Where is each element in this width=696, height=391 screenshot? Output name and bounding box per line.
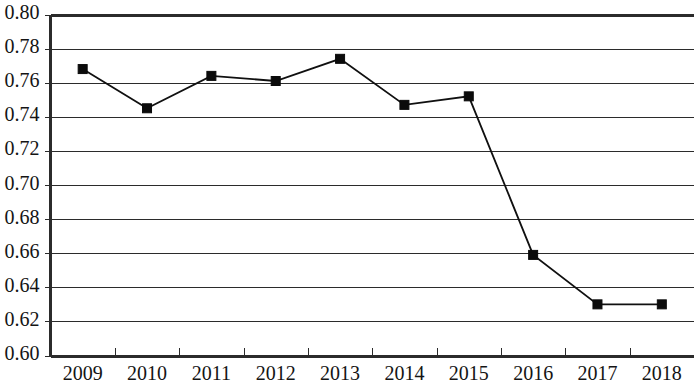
y-tick-label: 0.74: [5, 103, 40, 125]
data-point-marker: 2014: 0.747: [400, 100, 409, 109]
series-line: [83, 59, 662, 305]
y-tick-label: 0.76: [5, 69, 40, 91]
x-tick-label: 2016: [513, 362, 553, 384]
data-series: 2009: 0.7682010: 0.7452011: 0.7642012: 0…: [78, 54, 666, 309]
data-point-marker: 2012: 0.761: [271, 77, 280, 86]
data-point-marker: 2017: 0.630: [593, 300, 602, 309]
y-tick-label: 0.60: [5, 342, 40, 364]
data-point-marker: 2011: 0.764: [207, 71, 216, 80]
y-tick-label: 0.68: [5, 206, 40, 228]
data-point-marker: 2018: 0.630: [657, 300, 666, 309]
x-tick-label: 2011: [192, 362, 231, 384]
y-tick-label: 0.80: [5, 1, 40, 23]
x-tick-label: 2018: [642, 362, 682, 384]
y-tick-label: 0.70: [5, 172, 40, 194]
data-point-marker: 2015: 0.752: [464, 92, 473, 101]
y-tick-label: 0.62: [5, 308, 40, 330]
x-tick-label: 2010: [127, 362, 167, 384]
x-tick-marks: [116, 348, 631, 357]
x-tick-label: 2017: [577, 362, 617, 384]
gridlines: [51, 16, 695, 322]
y-tick-labels: 0.600.620.640.660.680.700.720.740.760.78…: [5, 1, 40, 364]
line-chart: 0.600.620.640.660.680.700.720.740.760.78…: [0, 0, 696, 391]
y-tick-label: 0.64: [5, 274, 40, 296]
x-tick-label: 2015: [449, 362, 489, 384]
y-tick-label: 0.72: [5, 137, 40, 159]
x-tick-label: 2012: [256, 362, 296, 384]
x-tick-label: 2009: [63, 362, 103, 384]
x-tick-labels: 2009201020112012201320142015201620172018: [63, 362, 682, 384]
chart-canvas: 0.600.620.640.660.680.700.720.740.760.78…: [0, 0, 696, 391]
data-point-marker: 2013: 0.774: [336, 54, 345, 63]
data-point-marker: 2009: 0.768: [78, 65, 87, 74]
data-point-marker: 2016: 0.659: [529, 250, 538, 259]
y-tick-label: 0.78: [5, 35, 40, 57]
x-tick-label: 2013: [320, 362, 360, 384]
data-point-marker: 2010: 0.745: [143, 104, 152, 113]
x-tick-label: 2014: [384, 362, 424, 384]
y-tick-label: 0.66: [5, 240, 40, 262]
